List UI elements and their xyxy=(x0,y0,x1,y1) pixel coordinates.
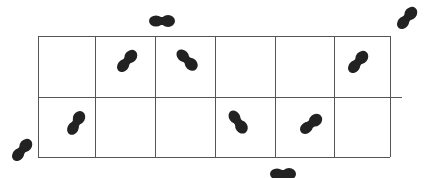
footprint-icon xyxy=(174,47,201,74)
footprint-icon xyxy=(149,15,175,27)
footprint-icon xyxy=(114,47,140,75)
footprint-icon xyxy=(64,109,87,138)
footprint-icon xyxy=(297,111,325,137)
grid xyxy=(38,36,402,158)
footprint-icon xyxy=(270,168,296,178)
footprints xyxy=(9,4,420,178)
footstep-grid-diagram xyxy=(0,0,432,178)
footprint-icon xyxy=(9,136,35,164)
footprint-icon xyxy=(394,4,420,32)
footprint-icon xyxy=(226,108,251,136)
footprint-icon xyxy=(345,48,371,76)
